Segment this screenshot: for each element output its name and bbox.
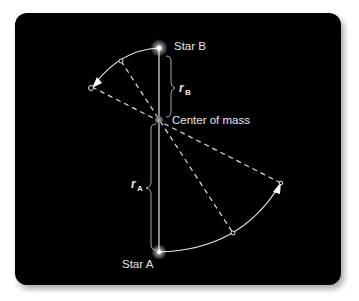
center-of-mass-icon	[154, 115, 164, 125]
star-a-orbit-arc	[159, 186, 279, 252]
r-b-brace	[166, 56, 175, 117]
star-a-icon	[157, 250, 161, 254]
dashed-line-shallow	[92, 87, 281, 183]
star-b-icon	[157, 46, 162, 51]
star-b-position-marker	[119, 59, 123, 63]
r-a-brace	[146, 124, 156, 250]
r-a-subscript: A	[137, 184, 143, 193]
star-a-position-marker	[231, 231, 235, 235]
star-b-label: Star B	[174, 40, 206, 52]
star-b-end-marker	[89, 86, 94, 91]
binary-star-diagram: Star B Center of mass Star A r B r A	[0, 0, 359, 301]
star-a-end-marker	[279, 181, 283, 185]
star-a-label: Star A	[122, 258, 154, 270]
star-b-orbit-arc	[94, 48, 159, 85]
center-of-mass-label: Center of mass	[172, 114, 250, 126]
r-b-subscript: B	[185, 88, 191, 97]
dashed-line-steep	[121, 61, 233, 233]
